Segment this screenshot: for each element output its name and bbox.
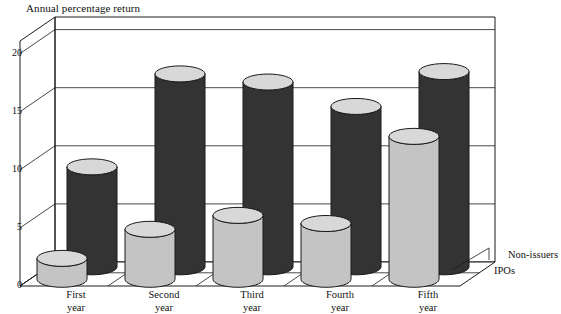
x-axis-tick-label-line: First: [31, 288, 121, 301]
axis-tick-depth-20: [20, 30, 55, 54]
y-axis-tick-label-0: 0: [0, 279, 22, 290]
x-axis-tick-label-line: year: [383, 301, 473, 314]
legend-label-non-issuers: Non-issuers: [508, 249, 558, 260]
y-axis-tick-label-10: 10: [0, 163, 22, 174]
x-axis-tick-label-line: Third: [207, 288, 297, 301]
x-axis-tick-label-4: Fourthyear: [295, 288, 385, 314]
chart-plot-area: [0, 0, 561, 314]
axis-tick-depth-15: [20, 88, 55, 112]
x-axis-tick-label-line: year: [295, 301, 385, 314]
bar-ipos-1: [37, 250, 87, 287]
left-wall: [20, 17, 55, 286]
x-axis-tick-label-line: year: [31, 301, 121, 314]
bar-ipos-4: [301, 216, 351, 288]
axis-tick-depth-10: [20, 146, 55, 170]
x-axis-tick-label-2: Secondyear: [119, 288, 209, 314]
x-axis-tick-label-line: year: [119, 301, 209, 314]
legend-label-ipos: IPOs: [494, 265, 515, 276]
y-axis-tick-label-5: 5: [0, 221, 22, 232]
chart-container: Annual percentage return 05101520 Firsty…: [0, 0, 561, 314]
bar-ipos-2: [125, 221, 175, 287]
bar-ipos-3: [213, 207, 263, 287]
x-axis-tick-label-line: year: [207, 301, 297, 314]
x-axis-tick-label-3: Thirdyear: [207, 288, 297, 314]
axis-tick-depth-5: [20, 204, 55, 228]
y-axis-tick-label-20: 20: [0, 47, 22, 58]
x-axis-tick-label-5: Fifthyear: [383, 288, 473, 314]
y-axis-tick-label-15: 15: [0, 105, 22, 116]
x-axis-tick-label-line: Second: [119, 288, 209, 301]
bar-ipos-5: [389, 128, 439, 287]
x-axis-tick-label-line: Fifth: [383, 288, 473, 301]
x-axis-tick-label-line: Fourth: [295, 288, 385, 301]
x-axis-tick-label-1: Firstyear: [31, 288, 121, 314]
